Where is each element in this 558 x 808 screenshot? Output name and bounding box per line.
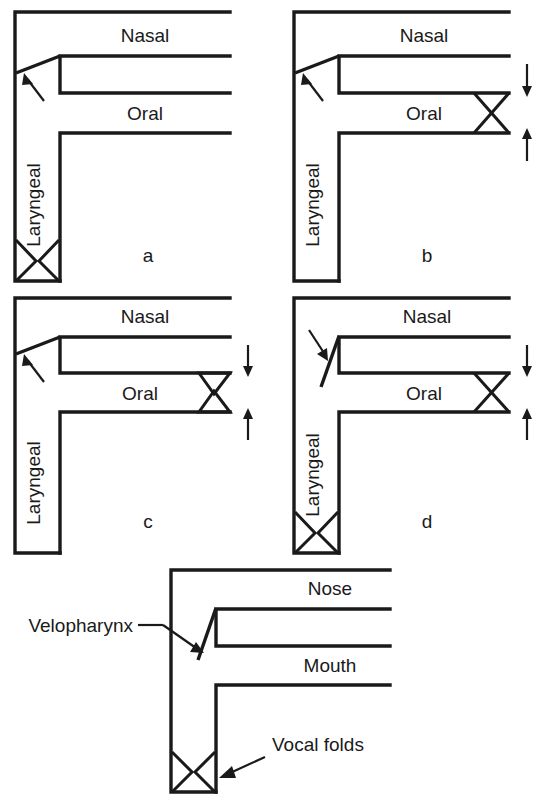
panel-b-diagram: Nasal Oral Laryngeal b: [279, 0, 558, 290]
vocal-fold-right: [195, 752, 215, 792]
panel-d: Nasal Oral Laryngeal d: [279, 290, 558, 560]
vocal-fold-right: [318, 512, 338, 553]
tract-outer-wall: [15, 12, 230, 281]
nasal-tube-wall: [339, 56, 509, 93]
velum-pointer-head: [22, 73, 33, 85]
oral-arrow-up-head: [243, 408, 253, 419]
vocal-folds-callout-head: [219, 766, 236, 778]
velum-pointer-line: [309, 330, 324, 353]
nasal-tube-wall: [60, 337, 230, 373]
panel-e-diagram: Velopharynx Vocal folds Nose Mouth: [0, 560, 558, 808]
label-oral: Oral: [127, 103, 163, 124]
nasal-tube-wall: [339, 337, 509, 373]
vocal-fold-left: [172, 752, 192, 792]
velum-pointer-head: [22, 354, 33, 366]
oral-arrow-up-head: [522, 408, 532, 419]
label-nasal: Nasal: [400, 25, 449, 46]
label-laryngeal: Laryngeal: [23, 441, 44, 524]
label-laryngeal: Laryngeal: [302, 163, 323, 246]
panel-letter-c: c: [143, 511, 153, 532]
oral-arrow-down-head: [522, 366, 532, 377]
label-laryngeal: Laryngeal: [302, 433, 323, 516]
oral-arrow-up-head: [522, 128, 532, 139]
label-oral: Oral: [406, 383, 442, 404]
label-nasal: Nasal: [121, 306, 170, 327]
oral-arrow-down-head: [522, 86, 532, 97]
velum-flap-closed: [321, 336, 339, 387]
nose-tube-wall: [216, 609, 390, 646]
tract-outer-wall: [171, 570, 390, 792]
panel-a-diagram: Nasal Oral Laryngeal a: [0, 0, 279, 290]
panel-letter-b: b: [422, 245, 433, 266]
oral-arrow-down-head: [243, 366, 253, 377]
panel-c-diagram: Nasal Oral Laryngeal c: [0, 290, 279, 560]
label-mouth: Mouth: [304, 655, 357, 676]
vocal-folds-callout-line: [230, 757, 265, 773]
panel-b: Nasal Oral Laryngeal b: [279, 0, 558, 290]
velum-flap: [16, 337, 60, 354]
panel-a: Nasal Oral Laryngeal a: [0, 0, 279, 290]
velum-pointer-head: [301, 73, 312, 85]
panel-d-diagram: Nasal Oral Laryngeal d: [279, 290, 558, 560]
velum-flap: [295, 56, 339, 73]
tract-outer-wall: [294, 12, 509, 281]
label-oral: Oral: [406, 103, 442, 124]
nasal-tube-wall: [60, 56, 230, 93]
label-nose: Nose: [308, 578, 352, 599]
vocal-tract-figure: Nasal Oral Laryngeal a Nasal Oral Laryn: [0, 0, 558, 808]
panel-letter-a: a: [143, 245, 154, 266]
label-oral: Oral: [122, 383, 158, 404]
label-nasal: Nasal: [403, 306, 452, 327]
callout-velopharynx: Velopharynx: [28, 615, 133, 636]
panel-e: Velopharynx Vocal folds Nose Mouth: [0, 560, 558, 808]
callout-vocal-folds: Vocal folds: [272, 734, 364, 755]
label-nasal: Nasal: [121, 25, 170, 46]
vocal-fold-left: [295, 512, 315, 553]
velum-flap: [16, 56, 60, 73]
velopharynx-callout-diagonal: [163, 625, 196, 648]
panel-letter-d: d: [422, 511, 433, 532]
label-laryngeal: Laryngeal: [23, 163, 44, 246]
panel-c: Nasal Oral Laryngeal c: [0, 290, 279, 560]
